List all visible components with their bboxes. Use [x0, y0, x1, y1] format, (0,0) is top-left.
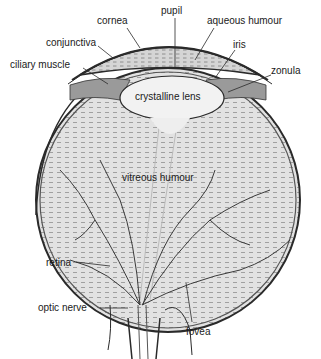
- label-ciliary-muscle: ciliary muscle: [10, 59, 70, 70]
- label-crystalline-lens: crystalline lens: [135, 91, 201, 102]
- label-conjunctiva: conjunctiva: [46, 37, 96, 48]
- label-aqueous-humour: aqueous humour: [207, 15, 283, 26]
- label-retina: retina: [46, 257, 71, 268]
- label-optic-nerve: optic nerve: [38, 302, 87, 313]
- label-pupil: pupil: [161, 5, 182, 16]
- label-iris: iris: [233, 39, 246, 50]
- label-vitreous-humour: vitreous humour: [122, 172, 194, 183]
- eye-diagram: cornea pupil aqueous humour conjunctiva …: [0, 0, 321, 359]
- label-cornea: cornea: [97, 15, 128, 26]
- label-zonula: zonula: [271, 65, 301, 76]
- label-fovea: fovea: [186, 326, 211, 337]
